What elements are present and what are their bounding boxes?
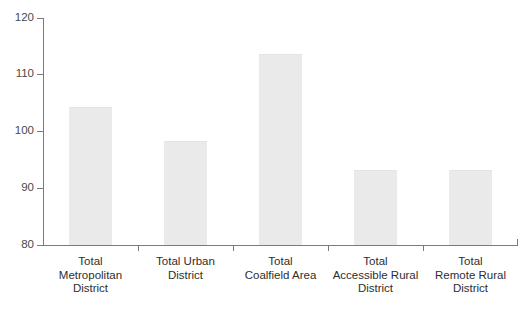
x-axis-category-label: Total Urban District [138, 255, 233, 282]
bar-total-coalfield-area [259, 54, 302, 245]
y-axis-tick-text: 80 [6, 239, 34, 251]
y-axis-tick-text: 100 [6, 125, 34, 137]
bar-total-urban-district [164, 141, 207, 245]
y-axis-tick-text: 90 [6, 182, 34, 194]
bar-total-metropolitan-district [69, 107, 112, 245]
x-axis-line [43, 245, 518, 246]
x-axis-category-label: Total Accessible Rural District [328, 255, 423, 296]
x-axis-tick-mark [328, 245, 329, 251]
x-axis-tick-mark [138, 245, 139, 251]
bar-total-accessible-rural-district [354, 170, 397, 245]
x-axis-category-label: Total Remote Rural District [423, 255, 518, 296]
x-axis-tick-mark [233, 245, 234, 251]
x-axis-tick-mark [423, 245, 424, 251]
x-axis-tick-mark [517, 239, 518, 246]
y-axis-tick-text: 120 [6, 12, 34, 24]
y-tick-label-110: 110 [0, 68, 34, 80]
x-axis-category-label: Total Coalfield Area [233, 255, 328, 282]
x-axis-category-label: Total Metropolitan District [43, 255, 138, 296]
y-tick-label-80: 80 [0, 239, 34, 251]
y-tick-label-100: 100 [0, 125, 34, 137]
bar-total-remote-rural-district [449, 170, 492, 245]
y-axis-line [43, 18, 44, 246]
x-axis-tick-mark [43, 239, 44, 246]
y-axis-tick-text: 110 [6, 68, 34, 80]
y-tick-label-120: 120 [0, 12, 34, 24]
bar-chart: 120 110 100 90 80 Total Metropolitan Dis… [0, 0, 532, 312]
y-tick-label-90: 90 [0, 182, 34, 194]
